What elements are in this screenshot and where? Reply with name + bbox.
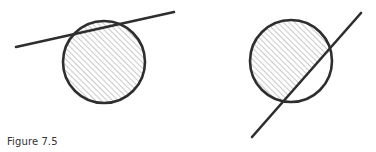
figure-diagram — [0, 0, 376, 152]
left-panel — [16, 12, 174, 103]
figure-caption: Figure 7.5 — [7, 136, 58, 148]
right-panel — [250, 13, 361, 137]
